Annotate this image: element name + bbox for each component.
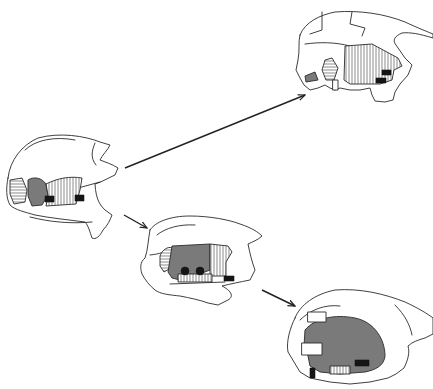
- skull-d-tooth-2: [355, 360, 369, 366]
- arrow-c-to-d: [262, 290, 295, 306]
- skull-b-tooth-2: [376, 78, 386, 83]
- skull-b-tooth-stub: [333, 80, 338, 90]
- skull-b-tooth-1: [382, 70, 391, 75]
- skull-stage-b: [296, 11, 433, 102]
- skull-d-tooth-1: [310, 368, 315, 378]
- skull-c-tooth-3: [224, 276, 234, 281]
- skull-stage-d: [287, 290, 433, 384]
- arrow-a-to-c: [124, 215, 147, 228]
- skull-c-lower-hatched: [178, 274, 212, 282]
- arrow-a-to-b: [125, 95, 305, 168]
- skull-a-tooth-2: [75, 195, 84, 201]
- skull-a-tooth-1: [45, 196, 54, 202]
- skull-c-tooth-1: [181, 267, 189, 275]
- skull-d-orbit-box: [308, 312, 326, 322]
- skull-d-nasal-box: [302, 343, 322, 355]
- diagram-canvas: [0, 0, 433, 389]
- skull-stage-c: [141, 216, 262, 305]
- skull-stage-a: [7, 135, 118, 238]
- skull-d-tooth-row: [330, 366, 350, 374]
- skull-c-tooth-2: [196, 267, 204, 275]
